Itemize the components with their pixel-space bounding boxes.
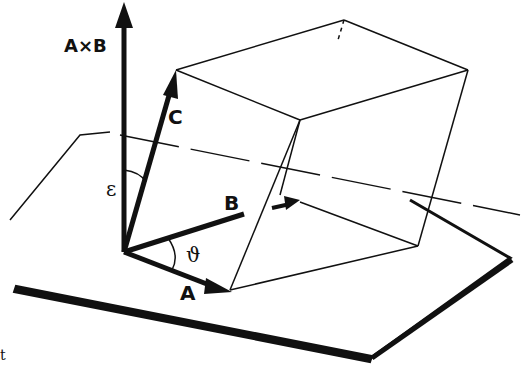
vector-c [124, 70, 178, 252]
plane-right-edge [368, 200, 510, 360]
vector-a-cross-b [115, 2, 133, 252]
plane-back-edge-2 [120, 135, 520, 215]
parallelepiped-diagram: A×B C B A ε ϑ t [0, 0, 521, 374]
label-b: B [224, 191, 239, 215]
angle-theta-arc [168, 238, 175, 270]
base-plane [10, 132, 520, 362]
label-corner-mark: t [0, 347, 6, 363]
vector-a [124, 252, 232, 294]
plane-right-edge-shadow [372, 260, 512, 358]
label-a-cross-b: A×B [64, 35, 107, 56]
label-theta: ϑ [186, 243, 200, 267]
plane-back-edge [10, 132, 110, 220]
label-c: C [168, 105, 183, 129]
label-a: A [180, 281, 196, 305]
label-epsilon: ε [106, 177, 116, 201]
vector-b [124, 196, 300, 252]
